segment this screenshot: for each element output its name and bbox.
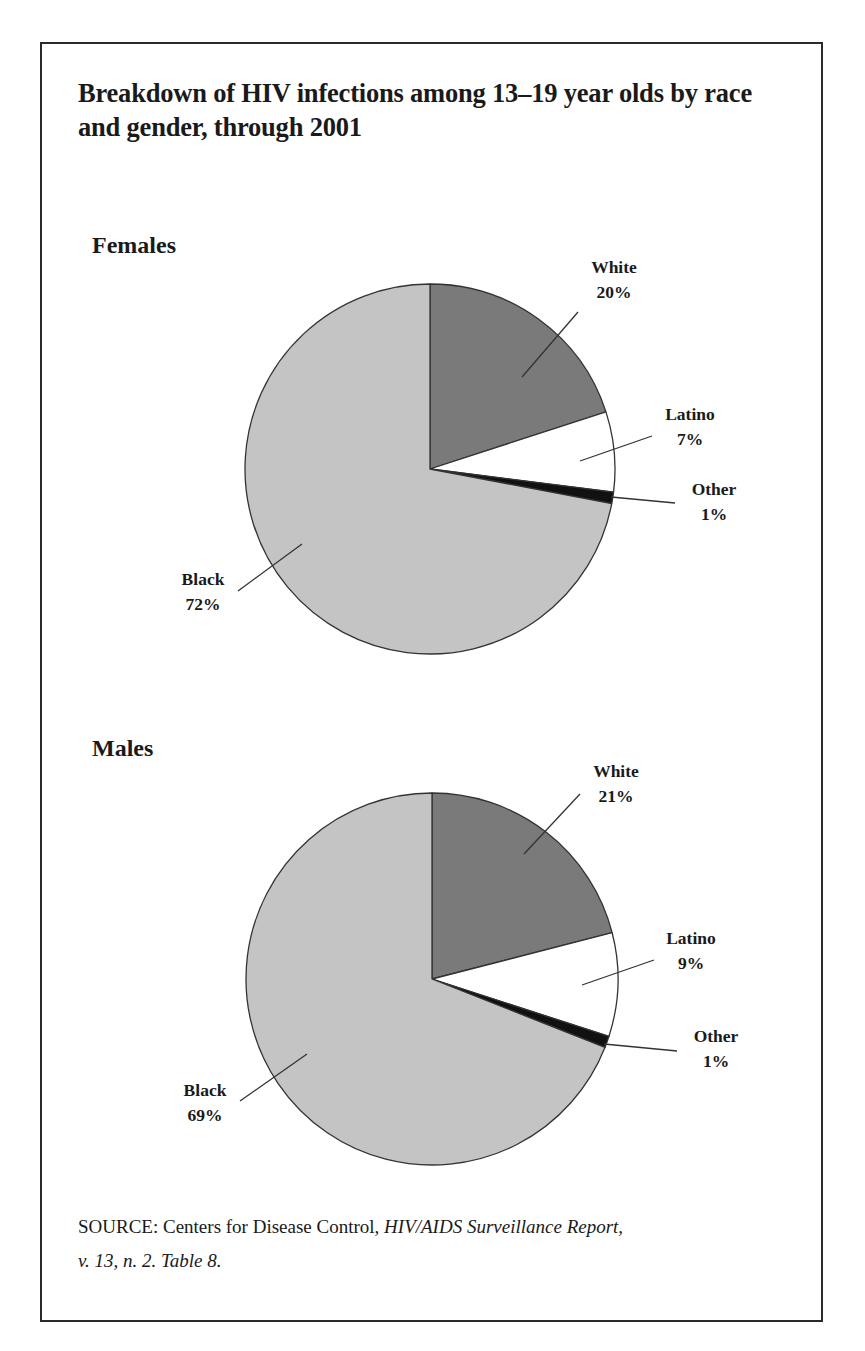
label-black-name: Black	[182, 569, 225, 589]
label-black-pct: 69%	[188, 1105, 223, 1125]
label-other-pct: 1%	[703, 1051, 729, 1071]
source-prefix: SOURCE: Centers for Disease Control,	[78, 1216, 384, 1237]
label-other-name: Other	[692, 479, 737, 499]
label-latino-name: Latino	[666, 928, 716, 948]
label-latino-pct: 7%	[677, 429, 703, 449]
label-white-name: White	[593, 761, 639, 781]
label-latino-pct: 9%	[678, 953, 704, 973]
source-note: SOURCE: Centers for Disease Control, HIV…	[78, 1210, 798, 1278]
label-black-pct: 72%	[186, 594, 221, 614]
label-white-name: White	[591, 257, 637, 277]
label-latino-name: Latino	[665, 404, 715, 424]
source-details: v. 13, n. 2. Table 8.	[78, 1250, 222, 1271]
label-white-pct: 21%	[599, 786, 634, 806]
leader-line-other	[611, 497, 675, 503]
label-other-pct: 1%	[701, 504, 727, 524]
pie-charts: White 20% Latino 7% Other 1% Black 72% W…	[0, 0, 865, 1351]
leader-line-other	[604, 1044, 677, 1051]
label-other-name: Other	[694, 1026, 739, 1046]
males-pie	[246, 793, 618, 1165]
label-white-pct: 20%	[597, 282, 632, 302]
label-black-name: Black	[184, 1080, 227, 1100]
females-pie	[245, 284, 615, 654]
source-publication: HIV/AIDS Surveillance Report,	[384, 1216, 623, 1237]
